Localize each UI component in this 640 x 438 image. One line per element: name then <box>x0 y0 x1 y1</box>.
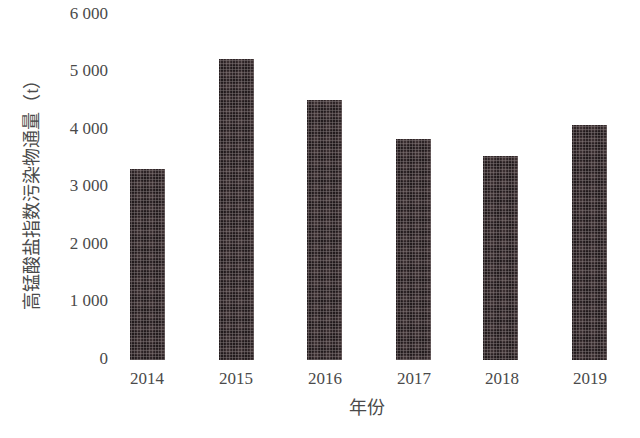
bar-2014 <box>130 169 165 360</box>
y-tick-6000: 6 000 <box>70 5 108 23</box>
bar-2015 <box>219 59 254 360</box>
y-tick-0: 0 <box>100 350 109 368</box>
x-tick-2018: 2018 <box>472 369 532 389</box>
bar-2018 <box>483 156 518 360</box>
x-tick-2014: 2014 <box>117 369 177 389</box>
y-tick-1000: 1 000 <box>70 292 108 310</box>
bar-2017 <box>396 139 431 360</box>
x-tick-2017: 2017 <box>384 369 444 389</box>
bar-2019 <box>572 125 607 360</box>
y-tick-4000: 4 000 <box>70 120 108 138</box>
y-tick-3000: 3 000 <box>70 177 108 195</box>
y-tick-2000: 2 000 <box>70 235 108 253</box>
y-tick-5000: 5 000 <box>70 62 108 80</box>
y-axis-label: 高锰酸盐指数污染物通量（t） <box>17 70 43 309</box>
x-tick-2015: 2015 <box>206 369 266 389</box>
x-tick-2019: 2019 <box>560 369 620 389</box>
x-axis-label: 年份 <box>349 393 385 419</box>
bar-2016 <box>307 100 342 360</box>
x-tick-2016: 2016 <box>295 369 355 389</box>
